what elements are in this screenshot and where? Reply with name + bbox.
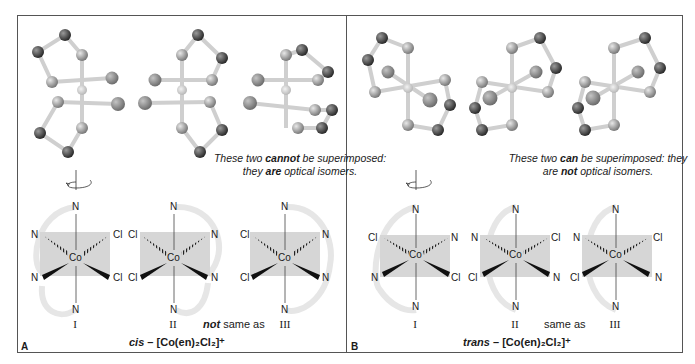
- atom-bottom: N: [512, 302, 519, 312]
- atoms: [32, 29, 666, 158]
- atom-top: N: [612, 205, 619, 215]
- atom-upper-right: Cl: [653, 233, 662, 243]
- isomer-label: I: [60, 318, 90, 330]
- atom-upper-right: Cl: [113, 230, 122, 240]
- atom-lower-left: Cl: [468, 273, 477, 283]
- atom-bottom: N: [612, 302, 619, 312]
- atom-upper-right: N: [211, 230, 218, 240]
- atom-top: N: [412, 205, 419, 215]
- atom-upper-left: N: [471, 233, 478, 243]
- ball-stick-models: [38, 35, 660, 152]
- atom-lower-left: N: [31, 273, 38, 283]
- atom-center-co: Co: [69, 253, 82, 263]
- atom-center-co: Co: [409, 250, 422, 260]
- model-cis-3: [250, 50, 332, 128]
- atom-top: N: [512, 205, 519, 215]
- atom-center-co: Co: [167, 253, 180, 263]
- diagram-canvas: [0, 0, 695, 364]
- atom-center-co: Co: [609, 250, 622, 260]
- atom-lower-right: Cl: [113, 273, 122, 283]
- atom-upper-left: Cl: [128, 230, 137, 240]
- note-panel-b: These two can be superimposed: they are …: [508, 152, 688, 178]
- caption-panel-a: cis – [Co(en)₂Cl₂]⁺: [129, 336, 225, 349]
- atom-top: N: [281, 202, 288, 212]
- relation-panel-b: same as: [544, 318, 586, 330]
- atom-lower-left: Cl: [128, 273, 137, 283]
- atom-upper-left: Cl: [240, 230, 249, 240]
- atom-center-co: Co: [509, 250, 522, 260]
- isomer-label: II: [158, 318, 188, 330]
- caption-panel-b: trans – [Co(en)₂Cl₂]⁺: [463, 336, 571, 349]
- atom-top: N: [170, 202, 177, 212]
- panel-label-a: A: [21, 341, 28, 352]
- atom-lower-left: Cl: [570, 273, 579, 283]
- isomer-label: II: [500, 318, 530, 330]
- atom-upper-left: N: [31, 230, 38, 240]
- atom-lower-right: N: [322, 273, 329, 283]
- atom-upper-left: Cl: [368, 233, 377, 243]
- atom-upper-right: Cl: [551, 233, 560, 243]
- wedge-structures: [36, 207, 652, 314]
- atom-upper-right: N: [451, 233, 458, 243]
- panel-label-b: B: [351, 341, 358, 352]
- atom-bottom: N: [412, 302, 419, 312]
- isomer-label: III: [600, 318, 630, 330]
- atom-top: N: [72, 202, 79, 212]
- atom-lower-left: Cl: [240, 273, 249, 283]
- atom-bottom: N: [170, 305, 177, 315]
- atom-lower-right: N: [655, 273, 662, 283]
- atom-center-co: Co: [278, 253, 291, 263]
- relation-panel-a: not same as: [203, 318, 265, 330]
- note-panel-a: These two cannot be superimposed: they a…: [210, 152, 390, 178]
- atom-lower-right: N: [211, 273, 218, 283]
- isomer-label: III: [270, 318, 300, 330]
- atom-lower-left: N: [371, 273, 378, 283]
- atom-upper-left: N: [573, 233, 580, 243]
- atom-lower-right: Cl: [451, 273, 460, 283]
- atom-upper-right: N: [322, 230, 329, 240]
- atom-bottom: N: [72, 305, 79, 315]
- isomer-label: I: [400, 318, 430, 330]
- atom-bottom: N: [281, 305, 288, 315]
- atom-lower-right: N: [553, 273, 560, 283]
